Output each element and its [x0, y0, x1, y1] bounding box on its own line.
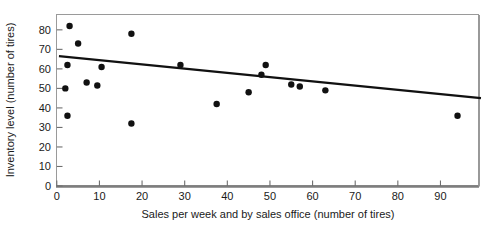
data-point [128, 120, 134, 126]
x-tick-label: 70 [349, 190, 361, 202]
y-tick-label: 0 [45, 180, 51, 192]
data-point [94, 82, 100, 88]
y-tick-label: 10 [39, 160, 51, 172]
x-tick-label: 20 [136, 190, 148, 202]
data-point [262, 62, 268, 68]
data-point [288, 81, 294, 87]
y-tick-label: 50 [39, 82, 51, 94]
data-point [128, 31, 134, 37]
data-point [75, 40, 81, 46]
data-point [258, 72, 264, 78]
x-tick-label: 40 [221, 190, 233, 202]
y-axis: 01020304050607080 [39, 24, 63, 192]
x-axis-title: Sales per week and by sales office (numb… [142, 208, 395, 220]
y-tick-label: 60 [39, 63, 51, 75]
data-point [98, 64, 104, 70]
data-point [177, 62, 183, 68]
x-tick-label: 80 [392, 190, 404, 202]
x-tick-label: 90 [434, 190, 446, 202]
data-point [83, 79, 89, 85]
y-tick-label: 30 [39, 121, 51, 133]
data-point [62, 85, 68, 91]
data-point [66, 23, 72, 29]
chart-svg: 01020304050607080 0102030405060708090 Sa… [0, 0, 501, 241]
x-tick-label: 0 [54, 190, 60, 202]
y-tick-label: 40 [39, 102, 51, 114]
data-point [297, 83, 303, 89]
x-tick-label: 60 [306, 190, 318, 202]
y-axis-title: Inventory level (number of tires) [4, 23, 16, 178]
data-point [454, 113, 460, 119]
y-tick-label: 20 [39, 141, 51, 153]
scatter-chart-figure: 01020304050607080 0102030405060708090 Sa… [0, 0, 501, 241]
data-point [64, 113, 70, 119]
x-tick-label: 50 [264, 190, 276, 202]
data-point [245, 89, 251, 95]
plot-frame [56, 15, 479, 187]
y-tick-label: 70 [39, 43, 51, 55]
data-point [322, 87, 328, 93]
data-point [213, 101, 219, 107]
data-point [64, 62, 70, 68]
x-tick-label: 30 [179, 190, 191, 202]
x-tick-label: 10 [93, 190, 105, 202]
y-tick-label: 80 [39, 24, 51, 36]
